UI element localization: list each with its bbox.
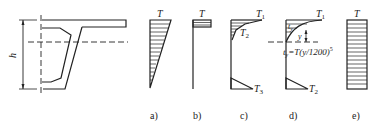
panel-b-flange-gradient (193, 20, 211, 89)
panel-e-top-label: T (354, 8, 361, 19)
panel-b-top-label: T (199, 8, 206, 19)
girder-cross-section (19, 15, 128, 95)
panel-d-top-label: T1 (316, 8, 326, 21)
panel-d-y-label: y (297, 32, 302, 41)
panel-a-caption: a) (150, 110, 158, 122)
panel-c-bottom-label: T3 (254, 83, 264, 96)
panel-e-uniform-temperature (347, 20, 367, 89)
height-dimension-label: h (7, 53, 18, 58)
panel-d-caption: d) (289, 110, 297, 122)
panel-d-bottom-label: T2 (309, 83, 319, 96)
panel-c-mid-label: T2 (240, 27, 250, 40)
panel-c-bilinear-gradient (231, 20, 262, 89)
panel-d-formula: ty=T(y/1200)5 (283, 46, 333, 58)
panel-b-caption: b) (193, 110, 201, 122)
panel-c-caption: c) (240, 110, 248, 122)
panel-a-top-label: T (157, 8, 164, 19)
panel-c-top-label: T1 (256, 8, 266, 21)
panel-d-inner-label: ty (288, 22, 293, 32)
temperature-gradient-figure: h T a) T b) T1 T2 T3 c) T1 ty y ty=T(y/1… (0, 0, 379, 130)
panel-a-linear-gradient (150, 20, 171, 88)
panel-e-caption: e) (352, 110, 360, 122)
